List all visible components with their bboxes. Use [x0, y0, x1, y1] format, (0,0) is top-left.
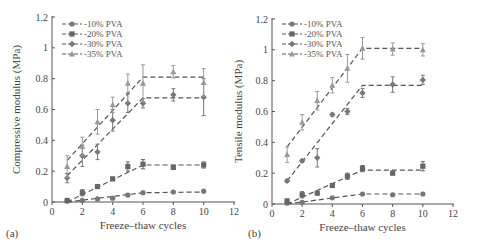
data-point — [315, 191, 320, 196]
data-point — [360, 191, 365, 196]
data-point — [201, 189, 206, 194]
series-20-pva — [284, 162, 425, 204]
y-tick-label: 0.8 — [256, 75, 269, 86]
data-point — [95, 119, 101, 125]
x-tick-label: 6 — [141, 206, 146, 217]
legend: -10% PVA-20% PVA-30% PVA-35% PVA — [282, 19, 343, 59]
data-point — [420, 77, 426, 83]
data-point — [170, 92, 176, 98]
data-point — [125, 164, 130, 169]
fit-line — [287, 194, 423, 204]
series-30-pva — [284, 75, 426, 184]
y-tick-label: 1 — [263, 44, 268, 55]
data-point — [95, 196, 100, 201]
data-point — [344, 65, 350, 71]
data-point — [360, 45, 366, 51]
x-tick-label: 8 — [390, 208, 395, 219]
figure: 02468101200.20.40.60.811.2Freeze–thaw cy… — [0, 0, 479, 251]
fit-line — [287, 85, 423, 181]
panel-label: (b) — [248, 227, 261, 240]
data-point — [390, 171, 395, 176]
legend-label: -35% PVA — [84, 49, 123, 59]
data-point — [201, 79, 207, 85]
x-axis-label: Freeze–thaw cycles — [100, 219, 186, 231]
x-tick-label: 2 — [300, 208, 305, 219]
x-tick-label: 0 — [270, 208, 275, 219]
y-tick-label: 0.4 — [256, 137, 269, 148]
data-point — [125, 192, 130, 197]
x-tick-label: 8 — [171, 206, 176, 217]
data-point — [110, 176, 115, 181]
fit-line — [67, 192, 204, 202]
legend-label: -20% PVA — [84, 29, 123, 39]
legend-label: -10% PVA — [84, 19, 123, 29]
x-tick-label: 4 — [110, 206, 115, 217]
y-tick-label: 1.2 — [36, 12, 49, 23]
data-point — [110, 102, 116, 108]
data-point — [359, 90, 365, 96]
data-point — [109, 117, 115, 123]
data-point — [65, 198, 70, 203]
y-tick-label: 0.6 — [256, 106, 269, 117]
x-axis-label: Freeze–thaw cycles — [319, 221, 405, 233]
y-tick-label: 1 — [43, 42, 48, 53]
data-point — [360, 166, 365, 171]
data-point — [140, 80, 146, 86]
y-tick-label: 0 — [263, 199, 268, 210]
data-point — [171, 165, 176, 170]
data-point — [345, 174, 350, 179]
y-tick-label: 0 — [43, 197, 48, 208]
series-35-pva — [64, 65, 207, 178]
legend-label: -10% PVA — [304, 19, 343, 29]
data-point — [80, 198, 85, 203]
data-point — [314, 98, 320, 104]
x-tick-label: 0 — [50, 206, 55, 217]
legend-label: -30% PVA — [304, 39, 343, 49]
chart-panel-a: 02468101200.20.40.60.811.2Freeze–thaw cy… — [6, 12, 239, 241]
data-point — [201, 162, 206, 167]
chart-panel-b: 02468101200.20.40.60.811.2Freeze–thaw cy… — [232, 14, 458, 241]
data-point — [64, 163, 70, 169]
x-tick-label: 12 — [229, 206, 239, 217]
fit-line — [67, 77, 204, 160]
legend-label: -30% PVA — [84, 39, 123, 49]
legend: -10% PVA-20% PVA-30% PVA-35% PVA — [62, 19, 123, 59]
legend-marker — [289, 41, 295, 47]
data-point — [284, 151, 290, 157]
fit-line — [67, 98, 204, 176]
data-point — [284, 198, 289, 203]
fit-line — [287, 48, 423, 147]
data-point — [299, 119, 305, 125]
data-point — [330, 195, 335, 200]
data-point — [390, 192, 395, 197]
data-point — [420, 164, 425, 169]
y-tick-label: 0.2 — [256, 168, 269, 179]
x-tick-label: 4 — [330, 208, 335, 219]
legend-label: -20% PVA — [304, 29, 343, 39]
fit-line — [287, 170, 423, 204]
x-tick-label: 12 — [448, 208, 458, 219]
y-axis-label: Compressive modulus (MPa) — [10, 45, 23, 174]
data-point — [140, 190, 145, 195]
data-point — [170, 69, 176, 75]
data-point — [300, 192, 305, 197]
x-tick-label: 10 — [199, 206, 209, 217]
data-point — [420, 191, 425, 196]
data-point — [140, 162, 145, 167]
data-point — [329, 82, 335, 88]
y-tick-label: 0.2 — [36, 166, 49, 177]
fit-line — [67, 165, 204, 202]
x-tick-label: 6 — [360, 208, 365, 219]
legend-marker — [289, 31, 294, 36]
legend-label: -35% PVA — [304, 49, 343, 59]
legend-marker — [69, 31, 74, 36]
data-point — [110, 196, 115, 201]
y-tick-label: 0.6 — [36, 104, 49, 115]
data-point — [420, 47, 426, 53]
panel-label: (a) — [6, 227, 19, 240]
data-point — [171, 189, 176, 194]
legend-marker — [289, 21, 294, 26]
data-point — [80, 190, 85, 195]
y-tick-label: 0.4 — [36, 135, 49, 146]
data-point — [314, 155, 320, 161]
